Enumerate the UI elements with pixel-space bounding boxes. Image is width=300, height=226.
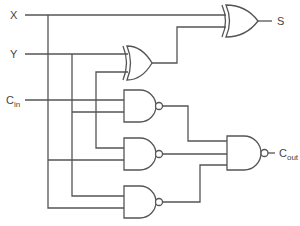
wire-nand1-out bbox=[163, 106, 227, 141]
wire-cin-xor1 bbox=[96, 72, 128, 100]
nand-gate-2 bbox=[124, 138, 163, 170]
xor-gate-1 bbox=[123, 46, 152, 80]
input-label-y: Y bbox=[10, 48, 18, 60]
input-label-x: X bbox=[10, 9, 18, 21]
output-label-s: S bbox=[277, 15, 284, 27]
wire-nand3-out bbox=[163, 165, 227, 202]
wire-xor1-out bbox=[152, 27, 226, 63]
wire-cin-nand2 bbox=[96, 100, 124, 148]
nand-gate-4 bbox=[227, 136, 268, 170]
output-label-cout: Cout bbox=[279, 147, 299, 162]
full-adder-circuit: X Y Cin bbox=[0, 0, 300, 226]
nand-gate-1 bbox=[124, 90, 163, 122]
nand-gate-3 bbox=[124, 186, 163, 218]
wire-y-bus bbox=[72, 54, 124, 196]
input-label-cin: Cin bbox=[6, 94, 20, 109]
xor-gate-2 bbox=[222, 5, 258, 37]
